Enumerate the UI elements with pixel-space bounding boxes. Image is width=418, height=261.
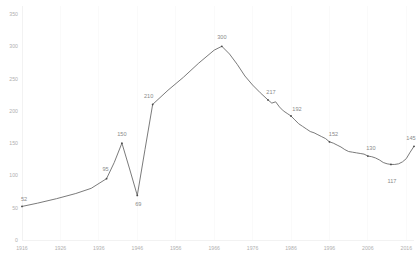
x-tick-label: 1936 — [93, 245, 105, 251]
x-tick-label: 1966 — [208, 245, 220, 251]
x-tick-label: 2006 — [362, 245, 374, 251]
data-point-marker — [221, 45, 223, 47]
data-point-marker — [367, 155, 369, 157]
data-point-label: 300 — [217, 34, 226, 40]
data-point-label: 69 — [135, 201, 141, 207]
data-point-marker — [413, 145, 415, 147]
x-tick-label: 2016 — [401, 245, 413, 251]
y-tick-label: 200 — [9, 108, 18, 114]
line-chart-figure: 050100150200250300350 191619261936194619… — [0, 0, 418, 261]
x-axis-tick-labels: 1916192619361946195619661976198619962006… — [16, 245, 412, 251]
y-axis-tick-labels: 050100150200250300350 — [9, 11, 18, 243]
series-layer — [22, 46, 414, 206]
data-point-marker — [267, 99, 269, 101]
data-point-labels: 529515069210300217192152130117145 — [21, 34, 416, 207]
data-point-label: 130 — [366, 145, 375, 151]
y-tick-label: 0 — [15, 237, 18, 243]
data-point-marker — [21, 206, 23, 208]
data-point-label: 95 — [102, 166, 108, 172]
x-tick-label: 1956 — [170, 245, 182, 251]
axes-layer — [22, 6, 414, 240]
data-point-marker — [290, 115, 292, 117]
data-point-label: 117 — [387, 178, 396, 184]
data-point-marker — [106, 178, 108, 180]
data-point-marker — [329, 141, 331, 143]
chart-canvas: 050100150200250300350 191619261936194619… — [0, 0, 418, 261]
data-point-marker — [390, 164, 392, 166]
data-point-label: 210 — [144, 93, 153, 99]
series-line — [22, 46, 414, 206]
x-tick-label: 1926 — [55, 245, 67, 251]
gridlines-layer — [22, 6, 406, 240]
y-tick-label: 100 — [9, 172, 18, 178]
x-tick-label: 1986 — [285, 245, 297, 251]
y-tick-label: 300 — [9, 43, 18, 49]
x-tick-label: 1946 — [132, 245, 144, 251]
data-point-marker — [136, 195, 138, 197]
data-point-label: 192 — [292, 106, 301, 112]
data-point-marker — [121, 142, 123, 144]
data-point-label: 217 — [266, 89, 275, 95]
data-point-marker — [152, 104, 154, 106]
data-point-label: 145 — [406, 135, 415, 141]
x-tick-label: 1916 — [16, 245, 28, 251]
data-point-label: 52 — [21, 196, 27, 202]
x-tick-label: 1976 — [247, 245, 259, 251]
y-tick-label: 50 — [12, 205, 18, 211]
y-tick-label: 350 — [9, 11, 18, 17]
data-point-label: 150 — [117, 131, 126, 137]
y-tick-label: 150 — [9, 140, 18, 146]
x-tick-label: 1996 — [324, 245, 336, 251]
point-markers-layer — [21, 45, 415, 207]
y-tick-label: 250 — [9, 76, 18, 82]
data-point-label: 152 — [329, 131, 338, 137]
